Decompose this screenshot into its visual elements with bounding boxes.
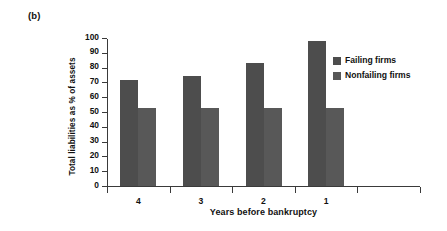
y-axis-tick: 30 [102,142,107,143]
bar-nonfailing-year-3 [201,108,219,186]
y-axis-tick-label: 80 [90,61,99,71]
y-axis-title: Total liabilities as % of assets [68,37,77,197]
bar-failing-year-3 [183,76,201,186]
y-axis-tick-label: 30 [90,135,99,145]
x-axis-title: Years before bankruptcy [107,207,420,217]
legend-swatch-icon [333,57,341,65]
y-axis-tick: 20 [102,156,107,157]
legend-swatch-icon [333,72,341,80]
y-axis-tick: 50 [102,112,107,113]
y-axis-tick-label: 70 [90,76,99,86]
y-axis-tick: 100 [102,38,107,39]
x-axis-group-label: 1 [324,196,329,206]
x-axis-tick [357,187,358,193]
bar-failing-year-2 [246,63,264,186]
chart-legend: Failing firmsNonfailing firms [333,54,410,84]
y-axis-tick-label: 100 [85,32,99,42]
x-axis-group-label: 3 [199,196,204,206]
y-axis-tick-label: 90 [90,46,99,56]
y-axis-tick-label: 40 [90,120,99,130]
x-axis-tick [232,187,233,193]
bar-failing-year-1 [308,41,326,186]
x-axis-tick [420,187,421,193]
x-axis-tick [170,187,171,193]
x-axis-line [107,186,420,187]
legend-item: Nonfailing firms [333,69,410,82]
bar-nonfailing-year-2 [264,108,282,186]
x-axis-tick [107,187,108,193]
y-axis-tick-label: 50 [90,106,99,116]
x-axis-tick [295,187,296,193]
y-axis-tick: 80 [102,68,107,69]
bar-failing-year-4 [120,80,138,186]
y-axis-tick-label: 20 [90,150,99,160]
x-axis-group-label: 4 [136,196,141,206]
figure-panel-b: (b) Total liabilities as % of assets 100… [0,0,447,231]
y-axis-tick: 70 [102,82,107,83]
y-axis-tick-label: 0 [94,180,99,190]
y-axis-tick-label: 60 [90,91,99,101]
panel-label: (b) [28,10,41,21]
legend-item: Failing firms [333,54,410,67]
y-axis-line [107,39,108,187]
y-axis-tick-label: 10 [90,165,99,175]
y-axis-tick: 60 [102,97,107,98]
legend-label: Failing firms [345,56,396,65]
legend-label: Nonfailing firms [345,71,410,80]
bar-nonfailing-year-1 [326,108,344,186]
x-axis-group-label: 2 [261,196,266,206]
bar-nonfailing-year-4 [138,108,156,186]
y-axis-tick: 40 [102,127,107,128]
y-axis-tick: 10 [102,171,107,172]
y-axis-tick: 90 [102,53,107,54]
